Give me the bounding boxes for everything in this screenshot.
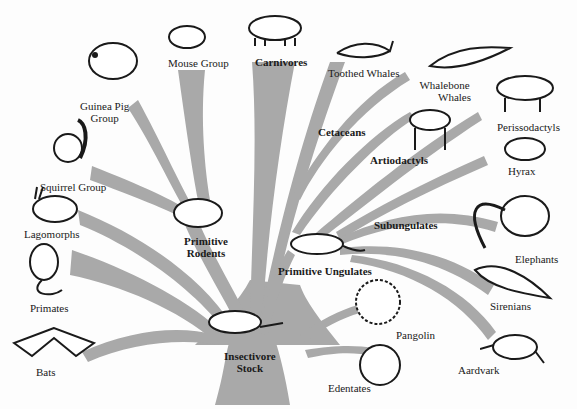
carnivore-icon <box>245 12 305 48</box>
aardvark-icon <box>480 325 545 367</box>
label-pangolin: Pangolin <box>396 329 435 341</box>
primitive-ungulate-icon <box>287 230 367 260</box>
toothed-whale-icon <box>335 33 395 63</box>
label-primitive-rodents: PrimitiveRodents <box>184 235 228 259</box>
primitive-rodent-icon <box>170 195 225 233</box>
mouse-icon <box>167 23 207 51</box>
insectivore-icon <box>205 307 285 337</box>
label-artiodactyls: Artiodactyls <box>370 154 428 166</box>
guinea-pig-icon <box>83 33 141 91</box>
label-whalebone-whales: WhaleboneWhales <box>418 79 471 103</box>
label-cetaceans: Cetaceans <box>318 126 366 138</box>
bat-icon <box>12 318 97 366</box>
label-guinea-pig: Guinea PigGroup <box>80 100 129 124</box>
squirrel-icon <box>50 118 92 166</box>
label-aardvark: Aardvark <box>458 364 500 376</box>
branch-mouse <box>178 70 210 200</box>
elephant-icon <box>465 190 560 252</box>
label-subungulates: Subungulates <box>374 219 438 231</box>
label-hyrax: Hyrax <box>508 165 536 177</box>
label-mouse: Mouse Group <box>168 57 229 69</box>
label-lagomorphs: Lagomorphs <box>24 228 80 240</box>
artiodactyl-icon <box>400 100 455 155</box>
label-carnivores: Carnivores <box>255 56 307 68</box>
label-edentates: Edentates <box>328 382 371 394</box>
label-bats: Bats <box>36 366 56 378</box>
label-primitive-ungulates: Primitive Ungulates <box>278 265 372 277</box>
label-toothed-whales: Toothed Whales <box>328 67 399 79</box>
pangolin-icon <box>352 278 402 333</box>
branch-bats <box>82 330 220 362</box>
label-perissodactyls: Perissodactyls <box>497 121 560 133</box>
label-sirenians: Sirenians <box>490 300 531 312</box>
label-primates: Primates <box>30 302 69 314</box>
label-squirrel: Squirrel Group <box>40 181 106 193</box>
mammal-evolution-diagram: Guinea PigGroup Mouse Group Carnivores T… <box>0 0 577 409</box>
primate-icon <box>22 240 67 300</box>
label-insectivore-stock: InsectivoreStock <box>224 350 276 374</box>
label-elephants: Elephants <box>515 253 558 265</box>
perissodactyl-icon <box>480 70 560 115</box>
hyrax-icon <box>503 135 548 163</box>
